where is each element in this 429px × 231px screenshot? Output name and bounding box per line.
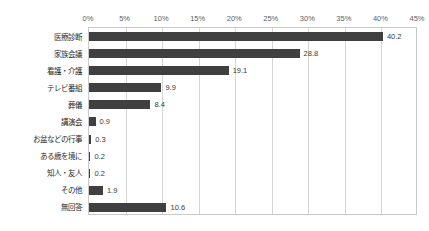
bar — [89, 135, 91, 144]
bar — [89, 117, 96, 126]
bar-value-label: 1.9 — [107, 186, 117, 195]
category-label: 家族会議 — [54, 47, 82, 58]
x-axis-tick-15: 15% — [190, 14, 205, 23]
bar-chart: 0%5%10%15%20%25%30%35%40%45% 40.228.819.… — [0, 0, 429, 231]
bar-value-label: 0.2 — [94, 169, 104, 178]
bar-value-label: 40.2 — [387, 32, 402, 41]
category-label: 無回答 — [61, 201, 82, 212]
bar-value-label: 0.9 — [100, 117, 110, 126]
category-label: 医療診断 — [54, 30, 82, 41]
category-label: 講演会 — [61, 116, 82, 127]
x-axis-tick-35: 35% — [336, 14, 351, 23]
x-axis-tick-labels: 0%5%10%15%20%25%30%35%40%45% — [88, 14, 417, 26]
bar-row: 28.8 — [89, 45, 416, 62]
bar-value-label: 28.8 — [304, 49, 319, 58]
category-label: 知人・友人 — [47, 167, 82, 178]
plot-area: 40.228.819.19.98.40.90.30.20.21.910.6 — [88, 27, 417, 215]
category-label: その他 — [61, 184, 82, 195]
bar-value-label: 19.1 — [233, 66, 248, 75]
bar-value-label: 0.2 — [94, 152, 104, 161]
bar — [89, 32, 383, 41]
category-label: お盆などの行事 — [33, 133, 82, 144]
bar-row: 0.9 — [89, 113, 416, 130]
category-axis-labels: 医療診断家族会議看護・介護テレビ番組葬儀講演会お盆などの行事ある歳を境に知人・友… — [0, 27, 85, 215]
bar-value-label: 8.4 — [154, 100, 164, 109]
x-axis-tick-25: 25% — [263, 14, 278, 23]
bar-row: 1.9 — [89, 182, 416, 199]
bar — [89, 100, 150, 109]
bar — [89, 169, 90, 178]
bar — [89, 152, 90, 161]
bar — [89, 186, 103, 195]
bar-row: 9.9 — [89, 79, 416, 96]
x-axis-tick-45: 45% — [409, 14, 424, 23]
bar — [89, 49, 300, 58]
category-label: テレビ番組 — [47, 81, 82, 92]
x-axis-tick-40: 40% — [373, 14, 388, 23]
bar-value-label: 0.3 — [95, 135, 105, 144]
bar-row: 40.2 — [89, 28, 416, 45]
bar-row: 10.6 — [89, 199, 416, 216]
category-label: ある歳を境に — [40, 150, 82, 161]
x-axis-tick-10: 10% — [154, 14, 169, 23]
bar-rows: 40.228.819.19.98.40.90.30.20.21.910.6 — [89, 28, 416, 214]
bar — [89, 83, 161, 92]
x-axis-tick-0: 0% — [83, 14, 94, 23]
bar-value-label: 10.6 — [170, 203, 185, 212]
bar-row: 0.3 — [89, 131, 416, 148]
bar-row: 8.4 — [89, 96, 416, 113]
x-axis-tick-5: 5% — [119, 14, 130, 23]
bar — [89, 203, 166, 212]
bar-row: 19.1 — [89, 62, 416, 79]
bar — [89, 66, 229, 75]
category-label: 看護・介護 — [47, 64, 82, 75]
x-axis-tick-20: 20% — [227, 14, 242, 23]
x-axis-tick-30: 30% — [300, 14, 315, 23]
bar-value-label: 9.9 — [165, 83, 175, 92]
bar-row: 0.2 — [89, 148, 416, 165]
bar-row: 0.2 — [89, 165, 416, 182]
category-label: 葬儀 — [68, 98, 82, 109]
